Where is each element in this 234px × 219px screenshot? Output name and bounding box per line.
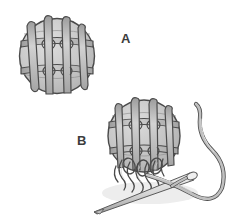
cord-strand-mid-right [62, 17, 71, 93]
panel-a-figure [20, 16, 95, 94]
cord-strand-mid-left [44, 16, 53, 94]
illustration-canvas: A B [0, 0, 234, 219]
panel-b-figure [94, 98, 224, 214]
netted-ball-illustration [0, 0, 234, 219]
panel-label-a: A [121, 32, 131, 45]
panel-label-b: B [77, 134, 87, 147]
